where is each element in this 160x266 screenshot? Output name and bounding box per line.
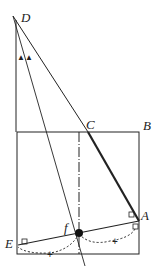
right-angle-icon <box>133 224 138 229</box>
point-f <box>75 229 83 237</box>
label-D: D <box>20 10 31 25</box>
label-A: A <box>140 208 149 223</box>
segment-C-A <box>88 132 139 221</box>
geometry-diagram: ▲▲ + + D C B A E f <box>0 0 160 266</box>
angle-mark-icon: ▲▲ <box>17 53 33 62</box>
label-B: B <box>143 118 151 133</box>
label-C: C <box>86 117 95 132</box>
line-D-C <box>13 16 88 132</box>
equal-tick-icon: + <box>47 249 53 260</box>
label-E: E <box>4 236 13 251</box>
equal-tick-icon: + <box>112 236 118 247</box>
label-f: f <box>64 220 70 235</box>
